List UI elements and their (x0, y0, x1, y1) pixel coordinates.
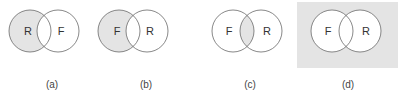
shaded-region (297, 2, 398, 68)
set-label-left: R (24, 25, 32, 37)
set-label-left: F (325, 25, 332, 37)
set-label-right: R (146, 25, 154, 37)
caption: (b) (140, 79, 152, 90)
caption: (c) (244, 79, 256, 90)
panel-b: F R (b) (98, 10, 168, 90)
caption: (a) (46, 79, 58, 90)
set-label-right: R (263, 25, 271, 37)
set-label-left: F (226, 25, 233, 37)
panel-a: R F (a) (9, 10, 79, 90)
set-label-left: F (114, 25, 121, 37)
set-label-right: F (58, 25, 65, 37)
caption: (d) (342, 79, 354, 90)
venn-diagrams: R F (a) F R (b) F R (c) F R (d) (0, 0, 405, 98)
set-label-right: R (362, 25, 370, 37)
panel-d: F R (d) (297, 2, 398, 90)
panel-c: F R (c) (212, 10, 282, 90)
